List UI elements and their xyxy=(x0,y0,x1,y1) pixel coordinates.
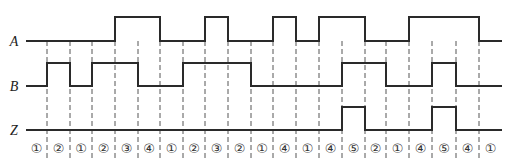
state-label: ① xyxy=(256,141,268,156)
state-label: ④ xyxy=(462,141,474,156)
state-label: ② xyxy=(234,141,246,156)
state-label: ② xyxy=(370,141,382,156)
state-sequence: ①②①②③④①②③②①④①④⑤②①④⑤④① xyxy=(31,141,497,156)
waveform-a xyxy=(26,17,502,41)
state-label: ② xyxy=(98,141,110,156)
timing-diagram: ABZ ①②①②③④①②③②①④①④⑤②①④⑤④① xyxy=(0,0,513,163)
state-label: ① xyxy=(392,141,404,156)
signal-label-b: B xyxy=(10,79,19,94)
state-label: ① xyxy=(485,141,497,156)
state-label: ④ xyxy=(279,141,291,156)
state-label: ① xyxy=(75,141,87,156)
state-label: ③ xyxy=(121,141,133,156)
state-label: ② xyxy=(188,141,200,156)
state-label: ④ xyxy=(143,141,155,156)
state-label: ② xyxy=(53,141,65,156)
state-label: ④ xyxy=(415,141,427,156)
state-label: ③ xyxy=(211,141,223,156)
state-label: ① xyxy=(166,141,178,156)
state-label: ① xyxy=(302,141,314,156)
waveform-b xyxy=(26,63,502,86)
state-label: ① xyxy=(31,141,43,156)
signal-labels: ABZ xyxy=(9,34,19,138)
signal-waveforms xyxy=(26,17,502,130)
waveform-z xyxy=(26,107,502,130)
signal-label-z: Z xyxy=(10,123,18,138)
state-label: ⑤ xyxy=(348,141,360,156)
signal-label-a: A xyxy=(9,34,19,49)
state-label: ⑤ xyxy=(438,141,450,156)
state-label: ④ xyxy=(325,141,337,156)
